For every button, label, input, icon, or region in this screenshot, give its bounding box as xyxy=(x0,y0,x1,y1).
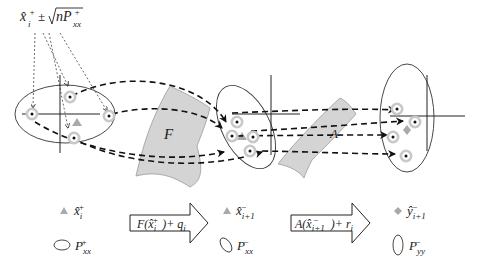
legend-label-prior-cov: Pxx+ xyxy=(75,238,97,256)
legend-diamond-measurement-icon xyxy=(394,207,402,215)
legend-arrow-f-label: F(x̂i+)+ qi xyxy=(137,216,186,233)
legend-arrow-a-label: A(x̂i+1−)+ ri xyxy=(295,216,353,233)
svg-text:xx: xx xyxy=(72,19,81,29)
unscented-transform-diagram: x̂ + i ± nP + xx F A xyxy=(0,0,477,272)
legend-triangle-predicted-icon xyxy=(223,207,231,214)
legend-ellipse-measurement-icon xyxy=(393,235,403,255)
legend-label-predicted-cov: Pxx− xyxy=(237,238,259,256)
legend-label-prior-mean: x̂i+ xyxy=(74,203,88,221)
svg-text:nP: nP xyxy=(56,9,72,24)
svg-text:+: + xyxy=(74,7,80,17)
label-a: A xyxy=(329,126,338,141)
svg-text:i: i xyxy=(28,19,31,29)
measurement-mean-marker xyxy=(403,125,411,135)
svg-text:+: + xyxy=(29,7,35,17)
legend-triangle-prior-icon xyxy=(60,207,68,214)
sigma-points-measurement xyxy=(388,104,420,161)
sigma-point-formula: x̂ + i ± nP + xx xyxy=(19,7,83,29)
legend-label-measurement-cov: Pyy− xyxy=(409,238,431,256)
legend-label-measurement-mean: ŷi+1− xyxy=(407,203,432,221)
label-f: F xyxy=(163,126,174,142)
prior-mean-marker xyxy=(72,118,82,126)
legend-label-predicted-mean: x̂i+1− xyxy=(236,203,261,221)
legend-ellipse-predicted-icon xyxy=(218,236,235,254)
legend-ellipse-prior-icon xyxy=(54,240,70,250)
measurement-covariance-ellipse xyxy=(380,64,465,172)
sigma-points-prior xyxy=(27,92,114,143)
svg-text:±: ± xyxy=(38,9,45,24)
svg-text:x̂: x̂ xyxy=(19,9,27,24)
